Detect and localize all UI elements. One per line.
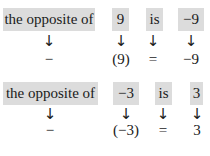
down-arrow-icon: ↓ <box>143 34 163 49</box>
symbol-operand: (−3) <box>106 123 146 137</box>
down-arrow-icon: ↓ <box>116 107 136 122</box>
down-arrow-icon: ↓ <box>187 107 207 122</box>
down-arrow-icon: ↓ <box>39 34 59 49</box>
phrase-opposite-of: the opposite of <box>3 82 98 105</box>
down-arrow-icon: ↓ <box>153 107 173 122</box>
symbol-result: 3 <box>177 123 210 137</box>
down-arrow-icon: ↓ <box>111 34 131 49</box>
symbol-equals: = <box>133 52 173 66</box>
phrase-is: is <box>155 82 172 105</box>
symbol-minus: − <box>29 52 69 66</box>
symbol-result: −9 <box>171 52 210 66</box>
down-arrow-icon: ↓ <box>181 34 201 49</box>
down-arrow-icon: ↓ <box>40 107 60 122</box>
phrase-number: 9 <box>112 8 129 31</box>
phrase-is: is <box>146 8 163 31</box>
phrase-result: −9 <box>178 8 204 31</box>
phrase-result: 3 <box>190 82 203 105</box>
phrase-opposite-of: the opposite of <box>3 8 95 31</box>
phrase-number: −3 <box>113 82 139 105</box>
symbol-minus: − <box>30 123 70 137</box>
